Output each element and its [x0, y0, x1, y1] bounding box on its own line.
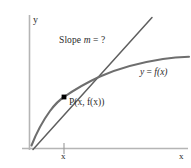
x-axis-label: x: [179, 152, 184, 161]
slope-variable-m: m: [84, 35, 91, 45]
y-axis-label: y: [33, 15, 38, 25]
slope-equals-question: = ?: [93, 35, 105, 45]
curve-equation-label: y = f(x): [140, 68, 168, 78]
curve-equals: =: [147, 67, 152, 77]
x-tick-label: x: [61, 152, 66, 161]
point-p-marker: [62, 95, 67, 100]
slope-question-label: Slope m = ?: [59, 36, 105, 46]
curve-y: y: [140, 67, 144, 77]
tangent-line-figure: Slope m = ? y = f(x) P(x, f(x)) y x x: [0, 0, 191, 168]
curve-fx: f(x): [154, 67, 167, 77]
figure-canvas: [0, 0, 191, 168]
slope-word: Slope: [59, 35, 81, 45]
point-p-label: P(x, f(x)): [69, 98, 104, 108]
